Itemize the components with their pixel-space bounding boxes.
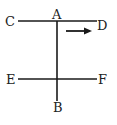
diagram-canvas: A C D E F B xyxy=(0,0,117,125)
label-b: B xyxy=(53,100,63,115)
arrow-right-icon xyxy=(66,28,92,35)
label-e: E xyxy=(6,72,16,87)
diagram-svg: A C D E F B xyxy=(0,0,117,125)
label-d: D xyxy=(97,18,107,33)
label-c: C xyxy=(5,14,15,29)
label-a: A xyxy=(51,7,62,22)
label-f: F xyxy=(98,72,107,87)
